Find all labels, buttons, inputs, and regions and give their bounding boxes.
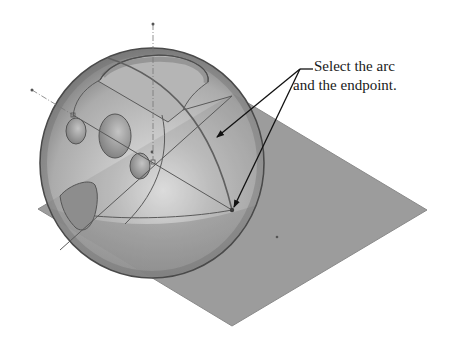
axis-top-point bbox=[152, 23, 155, 26]
callout-text: Select the arc and the endpoint. bbox=[306, 57, 397, 95]
endpoint[interactable] bbox=[230, 208, 234, 212]
callout-line-1: Select the arc bbox=[306, 57, 397, 76]
hole-1[interactable] bbox=[66, 118, 86, 144]
plane-origin-point bbox=[276, 236, 279, 239]
hole-2[interactable] bbox=[99, 114, 131, 158]
center-point bbox=[151, 151, 154, 154]
cad-scene bbox=[0, 0, 451, 340]
axis-left-point bbox=[31, 89, 34, 92]
callout-line-2: and the endpoint. bbox=[293, 76, 397, 95]
hole-3[interactable] bbox=[130, 153, 150, 179]
